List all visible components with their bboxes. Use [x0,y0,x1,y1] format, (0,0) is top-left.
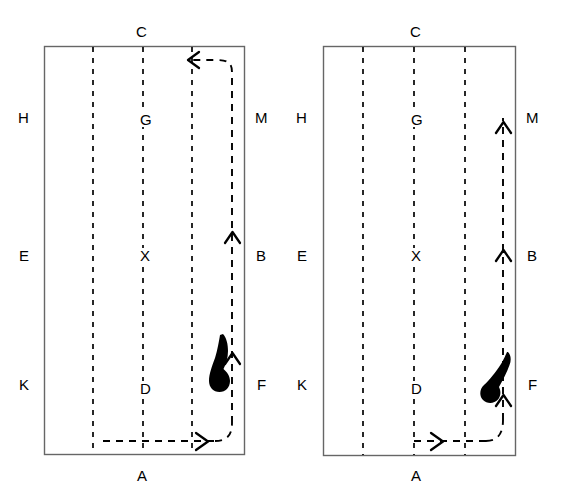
left-panel-label-A: A [137,468,147,483]
two-panel-trajectory-figure: C H M E B K F A G X D C H M E B K F A G … [0,0,561,496]
left-panel-label-C: C [136,24,147,39]
right-panel-label-A: A [411,468,421,483]
left-panel-label-G: G [138,112,154,127]
left-panel-label-X: X [138,248,152,263]
trajectory-corner-bottom-right [486,420,503,441]
right-panel-label-G: G [409,112,425,127]
left-panel-label-B: B [256,248,266,263]
right-panel-label-B: B [527,248,537,263]
right-panel-label-D: D [409,381,424,396]
right-panel-arrowheads [431,122,511,450]
left-panel-label-H: H [18,110,29,125]
right-panel-blob [480,352,510,403]
right-panel-label-C: C [410,24,421,39]
left-panel-label-D: D [138,381,153,396]
left-panel-label-M: M [255,110,268,125]
left-panel-label-E: E [19,248,29,263]
right-panel-label-E: E [297,248,307,263]
right-panel-label-X: X [409,248,423,263]
left-panel-label-F: F [257,377,266,392]
right-panel-label-H: H [296,110,307,125]
left-panel-label-K: K [19,377,29,392]
diagram-canvas [0,0,561,496]
right-panel-label-M: M [526,110,539,125]
right-panel-label-K: K [297,377,307,392]
trajectory-corner-bottom-right [215,423,232,441]
right-panel-label-F: F [528,377,537,392]
